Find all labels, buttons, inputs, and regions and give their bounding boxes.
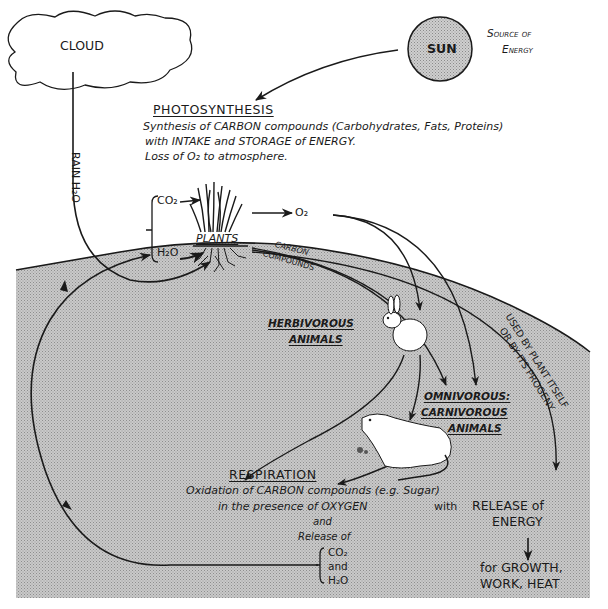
release-co2: CO₂ (328, 547, 348, 558)
respiration-line2: in the presence of OXYGEN (218, 501, 368, 512)
respiration-line1: Oxidation of CARBON compounds (e.g. Suga… (186, 485, 440, 496)
plants-label: PLANTS (196, 233, 238, 244)
sun-caption-line2: Energy (502, 44, 533, 55)
rain-label: RAIN H₂O (70, 152, 81, 203)
energy-line1: RELEASE of (472, 500, 544, 513)
respiration-heading: RESPIRATION (229, 469, 317, 482)
plant-output-o2: O₂ (295, 207, 308, 218)
herbivores-line1: HERBIVOROUS (268, 318, 354, 329)
energy-line2: ENERGY (492, 516, 543, 529)
herbivores-line2: ANIMALS (289, 334, 343, 345)
release-h2o: H₂O (328, 575, 348, 586)
release-and: and (328, 561, 348, 572)
sun-label: SUN (427, 43, 457, 56)
carnivores-line3: ANIMALS (448, 423, 502, 434)
photosynthesis-line2: with INTAKE and STORAGE of ENERGY. (145, 136, 356, 147)
plant-grass-icon (190, 182, 242, 232)
respiration-line3: and (313, 517, 332, 527)
respiration-line4: Release of (298, 532, 350, 542)
photosynthesis-line1: Synthesis of CARBON compounds (Carbohydr… (143, 121, 503, 132)
sun-energy-arrow (256, 50, 398, 100)
energy-use-line2: WORK, HEAT (480, 578, 560, 591)
carnivores-line2: CARNIVOROUS (421, 407, 508, 418)
co2-arrow (180, 200, 200, 202)
cloud-label: CLOUD (60, 40, 104, 53)
photosynthesis-line3: Loss of O₂ to atmosphere. (145, 151, 288, 162)
respiration-line2-suffix: with (434, 501, 457, 512)
plant-input-h2o: H₂O (157, 247, 178, 258)
energy-use-line1: for GROWTH, (480, 562, 563, 575)
plant-input-co2: CO₂ (157, 195, 178, 206)
earth-region (16, 243, 590, 598)
carnivores-line1: OMNIVOROUS: (424, 391, 510, 402)
sun-caption-line1: Source of (487, 28, 531, 39)
photosynthesis-heading: PHOTOSYNTHESIS (153, 104, 274, 117)
